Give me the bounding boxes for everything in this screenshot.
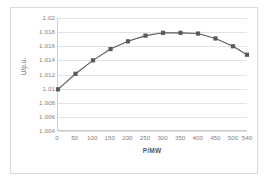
y-axis-tick-label: 1.01	[13, 86, 55, 92]
y-axis-tick-labels: 1.021.0181.0161.0141.0121.011.0081.0061.…	[11, 18, 55, 131]
data-point-marker	[161, 31, 165, 35]
x-axis-title: P/MW	[57, 147, 247, 154]
data-point-marker	[108, 47, 112, 51]
gridline	[58, 131, 247, 132]
y-axis-title: U/p.u.	[20, 47, 27, 87]
data-point-marker	[245, 53, 249, 57]
data-point-marker	[178, 31, 182, 35]
y-axis-tick-label: 1.02	[13, 15, 55, 21]
y-axis-tick-label: 1.006	[13, 114, 55, 120]
plot-area	[57, 18, 247, 131]
chart-frame: 1.021.0181.0161.0141.0121.011.0081.0061.…	[10, 7, 258, 174]
x-axis-tick-label: 540	[235, 134, 259, 142]
data-point-marker	[73, 72, 77, 76]
data-point-marker	[126, 39, 130, 43]
y-axis-tick-label: 1.018	[13, 29, 55, 35]
data-point-marker	[196, 31, 200, 35]
y-axis-tick-label: 1.008	[13, 100, 55, 106]
data-point-marker	[231, 44, 235, 48]
data-point-marker	[91, 58, 95, 62]
data-line	[58, 33, 247, 90]
data-point-marker	[56, 87, 60, 91]
x-axis-tick-labels: 050100150200250300350400450500540	[57, 134, 247, 146]
data-point-marker	[213, 36, 217, 40]
data-point-marker	[143, 34, 147, 38]
data-series-voltage	[58, 18, 247, 131]
